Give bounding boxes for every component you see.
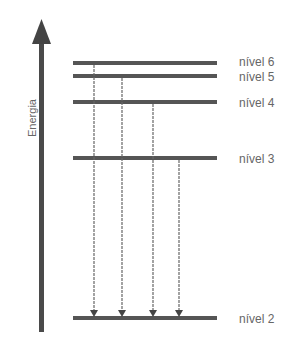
- level-line-6: [73, 61, 217, 65]
- level-label-2: nível 2: [239, 312, 274, 326]
- energy-axis-arrow: [32, 19, 51, 332]
- energy-axis-label: Energia: [26, 93, 38, 143]
- arrowhead-icon: [149, 310, 157, 317]
- level-label-6: nível 6: [239, 55, 274, 69]
- energy-level-diagram: [0, 0, 299, 348]
- arrowhead-icon: [90, 310, 98, 317]
- arrowheads: [90, 310, 183, 317]
- arrowhead-icon: [175, 310, 183, 317]
- level-label-3: nível 3: [239, 152, 274, 166]
- level-line-2: [73, 316, 217, 320]
- level-label-4: nível 4: [239, 96, 274, 110]
- arrowhead-icon: [118, 310, 126, 317]
- level-label-5: nível 5: [239, 70, 274, 84]
